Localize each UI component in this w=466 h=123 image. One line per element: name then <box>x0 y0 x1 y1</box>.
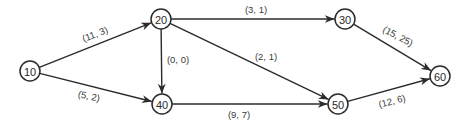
node-label: 10 <box>24 66 36 78</box>
edge-label-20-40: (0, 0) <box>167 54 189 65</box>
edge-20-50 <box>170 23 329 99</box>
node-50: 50 <box>328 94 348 114</box>
network-diagram: (11, 3)(5, 2)(0, 0)(3, 1)(2, 1)(9, 7)(15… <box>0 0 466 123</box>
edge-label-40-50: (9, 7) <box>228 109 250 120</box>
node-label: 30 <box>339 14 351 26</box>
edge-label-30-60: (15, 25) <box>381 23 415 48</box>
node-60: 60 <box>430 66 450 86</box>
node-label: 20 <box>155 14 167 26</box>
edge-label-20-50: (2, 1) <box>255 51 277 62</box>
node-label: 50 <box>332 99 344 111</box>
edge-label-20-30: (3, 1) <box>245 4 267 15</box>
edge-labels-layer: (11, 3)(5, 2)(0, 0)(3, 1)(2, 1)(9, 7)(15… <box>77 4 415 120</box>
node-30: 30 <box>335 9 355 29</box>
node-40: 40 <box>152 94 172 114</box>
node-20: 20 <box>151 9 171 29</box>
node-label: 60 <box>434 71 446 83</box>
edge-20-40 <box>161 29 162 94</box>
edge-label-10-40: (5, 2) <box>77 88 101 103</box>
node-10: 10 <box>20 61 40 81</box>
edge-label-50-60: (12, 6) <box>377 92 406 109</box>
node-label: 40 <box>156 99 168 111</box>
